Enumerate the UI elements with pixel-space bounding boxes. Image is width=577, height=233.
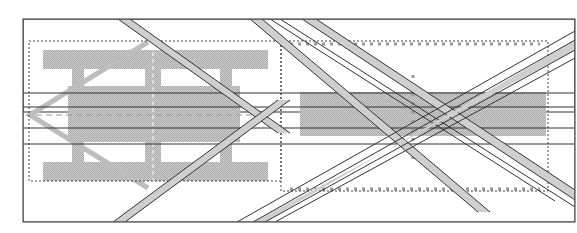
left-panel (30, 42, 268, 188)
band-asc-4-edge-a (275, 58, 575, 222)
right-panel (290, 44, 546, 189)
central-block (68, 86, 240, 142)
diagram-canvas (0, 0, 577, 233)
